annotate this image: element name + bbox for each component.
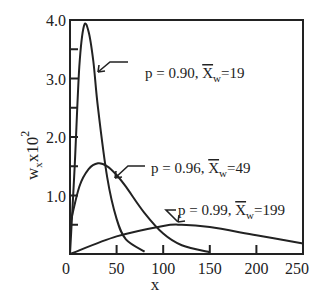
y-axis-label-mult: x10 (23, 137, 42, 163)
y-tick-label: 4.0 (46, 12, 66, 29)
x-axis-label: x (151, 275, 160, 294)
y-axis-label-exp: 2 (18, 131, 32, 137)
series-annotation: p = 0.96, Xw=49 (151, 160, 250, 179)
series-curve-0 (70, 23, 145, 254)
x-tick-label: 250 (285, 260, 309, 277)
y-tick-label: 3.0 (46, 71, 66, 88)
annotation-arrow (166, 210, 178, 222)
x-tick-label: 200 (244, 260, 268, 277)
annotation-arrow (115, 166, 145, 178)
data-curves (70, 23, 303, 254)
y-axis-label-main: w (23, 167, 42, 180)
series-annotation: p = 0.99, Xw=199 (178, 202, 285, 221)
x-tick-label: 150 (198, 260, 222, 277)
y-axis-label: wxx102 (18, 131, 44, 180)
series-annotation: p = 0.90, Xw=19 (145, 65, 244, 84)
plot-frame (70, 20, 303, 254)
chart: 1.02.03.04.0 050100150200250 p = 0.90, X… (0, 0, 323, 301)
series-curve-2 (70, 225, 303, 254)
x-axis-ticks: 050100150200250 (62, 245, 309, 277)
y-tick-label: 2.0 (46, 129, 66, 146)
y-tick-label: 1.0 (46, 188, 66, 205)
x-tick-label: 0 (62, 260, 70, 277)
svg-text:wxx102: wxx102 (18, 131, 44, 180)
annotations: p = 0.90, Xw=19p = 0.96, Xw=49p = 0.99, … (98, 62, 285, 222)
annotation-arrow (98, 62, 128, 72)
x-tick-label: 50 (109, 260, 125, 277)
